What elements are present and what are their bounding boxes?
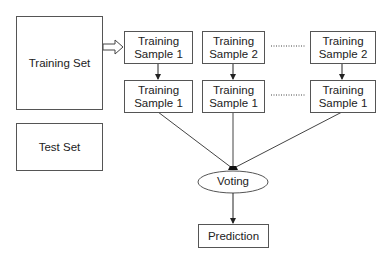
block-arrow-icon xyxy=(103,40,123,54)
sample-label: Sample 1 xyxy=(134,97,183,110)
sample-label: Sample 2 xyxy=(319,48,368,61)
sample-box-col2-bottom: Training Sample 1 xyxy=(202,80,265,113)
sample-label: Sample 1 xyxy=(319,97,368,110)
test-set-box: Test Set xyxy=(16,123,103,171)
sample-box-col1-top: Training Sample 1 xyxy=(124,31,193,64)
sample-box-col1-bottom: Training Sample 1 xyxy=(124,80,193,113)
sample-box-col3-bottom: Training Sample 1 xyxy=(310,80,376,113)
sample-label: Training xyxy=(322,35,363,48)
sample-label: Sample 2 xyxy=(209,48,258,61)
sample-box-col3-top: Training Sample 2 xyxy=(310,31,376,64)
sample-box-col2-top: Training Sample 2 xyxy=(202,31,265,64)
sample-label: Training xyxy=(213,84,254,97)
test-set-label: Test Set xyxy=(39,141,81,154)
voting-label: Voting xyxy=(198,175,268,187)
training-set-label: Training Set xyxy=(29,57,91,70)
prediction-box: Prediction xyxy=(198,224,269,248)
sample-label: Training xyxy=(213,35,254,48)
sample-label: Training xyxy=(322,84,363,97)
sample-label: Training xyxy=(138,35,179,48)
sample-label: Sample 1 xyxy=(209,97,258,110)
sample-label: Training xyxy=(138,84,179,97)
training-set-box: Training Set xyxy=(16,16,103,110)
sample-label: Sample 1 xyxy=(134,48,183,61)
prediction-label: Prediction xyxy=(208,230,259,243)
